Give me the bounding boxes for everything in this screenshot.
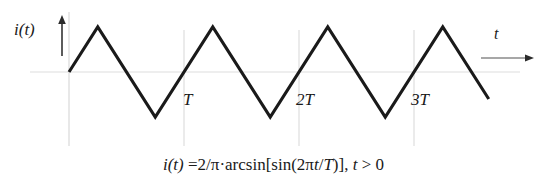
equation-variable-T: T	[323, 155, 332, 174]
y-axis-arrow-icon	[58, 15, 66, 56]
y-axis-label: i(t)	[14, 21, 35, 38]
equation-close-bracket: )],	[333, 155, 353, 174]
x-axis-arrow-icon	[481, 55, 534, 62]
equation-condition: > 0	[357, 155, 384, 174]
x-tick-label-T: T	[183, 91, 192, 108]
waveform-figure: i(t) t T 2T 3T i(t) =2/π·arcsin[sin(2πt/…	[0, 0, 547, 187]
x-axis-label: t	[494, 26, 498, 42]
equation-operator: =2/π·arcsin[sin(2	[184, 155, 306, 174]
x-tick-label-3T: 3T	[411, 91, 429, 108]
equation-pi-symbol: π	[305, 155, 314, 174]
equation-caption: i(t) =2/π·arcsin[sin(2πt/T)], t > 0	[0, 155, 547, 175]
x-tick-label-2T: 2T	[296, 91, 314, 108]
equation-lhs: i(t)	[163, 155, 184, 174]
